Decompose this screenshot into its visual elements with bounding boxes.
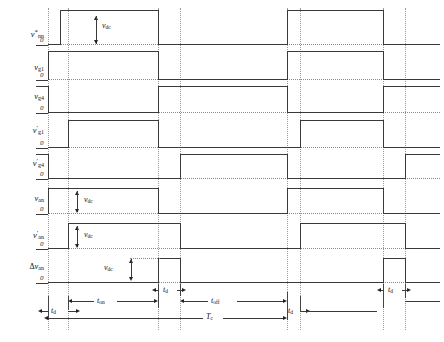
trace-dvan-pulse-1 bbox=[158, 258, 180, 259]
td2-tick-right bbox=[180, 284, 181, 296]
vdc-guide-4 bbox=[130, 258, 160, 259]
trace-vnn-low-1 bbox=[158, 44, 287, 45]
axis-tick-vg4 bbox=[36, 113, 48, 114]
vdc-label-2: vdc bbox=[84, 196, 93, 205]
vdc-arrow-dn-3 bbox=[75, 244, 79, 248]
trace-dvan-zero-3 bbox=[405, 282, 440, 283]
signal-label-vg4: vg4 bbox=[6, 92, 44, 103]
td1-tick-left bbox=[48, 296, 49, 320]
ton-line-right bbox=[117, 301, 154, 302]
signal-label-van: van bbox=[6, 194, 44, 205]
signal-label-vg4-prime: v′g4 bbox=[6, 157, 44, 170]
trace-vg1p-low-1 bbox=[158, 147, 300, 148]
signal-label-delta-van: Δvan bbox=[2, 262, 44, 273]
trace-vanp-high-2 bbox=[300, 223, 405, 224]
trace-van-fall-1 bbox=[158, 188, 159, 214]
trace-vg4-rise-2 bbox=[383, 86, 384, 113]
trace-vg1p-high-2 bbox=[300, 120, 383, 121]
trace-vg1-low-1 bbox=[158, 79, 287, 80]
vdc-arrow-dn-4 bbox=[129, 277, 133, 281]
zero-marker-vnn: 0 bbox=[40, 37, 44, 44]
trace-vanp-rise-2 bbox=[300, 223, 301, 249]
trace-van-low-1 bbox=[158, 213, 287, 214]
baseline-right-a bbox=[405, 301, 440, 302]
trace-van-rise-1 bbox=[48, 188, 49, 214]
td-label-2: td bbox=[163, 286, 168, 295]
vdc-label-4: vdc bbox=[104, 264, 113, 273]
trace-dvan-fall-2 bbox=[405, 258, 406, 283]
trace-vg4p-high-1 bbox=[180, 154, 287, 155]
trace-vg4p-rise-2 bbox=[405, 154, 406, 179]
trace-dvan-zero-1 bbox=[48, 282, 158, 283]
td1-line-right bbox=[68, 311, 76, 312]
td3-tick-right bbox=[300, 296, 301, 312]
trace-dvan-pulse-2 bbox=[383, 258, 405, 259]
trace-vanp-low-0 bbox=[48, 248, 68, 249]
axis-tick-vanp bbox=[36, 249, 48, 250]
td3-tick-left bbox=[287, 292, 288, 320]
tc-line-left bbox=[48, 318, 203, 319]
tc-line-right bbox=[223, 318, 283, 319]
zero-marker-vg4: 0 bbox=[40, 105, 44, 112]
trace-vanp-low-1 bbox=[180, 248, 300, 249]
trace-vg4-rise-1 bbox=[158, 86, 159, 113]
td-label-3: td bbox=[288, 307, 293, 316]
trace-vg1p-rise-1 bbox=[68, 120, 69, 148]
axis-tick-vg4p bbox=[36, 179, 48, 180]
trace-vg1-fall-1 bbox=[158, 51, 159, 80]
trace-vg1p-rise-2 bbox=[300, 120, 301, 148]
trace-vg1-fall-2 bbox=[383, 51, 384, 80]
trace-vnn-high-1 bbox=[60, 10, 158, 11]
td-label-1: td bbox=[51, 307, 56, 316]
trace-vg1-rise-2 bbox=[287, 51, 288, 80]
trace-van-low-2 bbox=[383, 213, 440, 214]
toff-line-right bbox=[237, 301, 283, 302]
vdc-stem-4 bbox=[131, 259, 132, 279]
trace-vg4p-fall-1 bbox=[48, 154, 49, 179]
vdc-arrow-dn-1 bbox=[94, 40, 98, 44]
trace-vg4-fall-2 bbox=[287, 86, 288, 113]
zero-marker-dvan: 0 bbox=[40, 275, 44, 282]
td2-tick-left bbox=[158, 284, 159, 308]
trace-vg4-low-1 bbox=[48, 112, 158, 113]
trace-vnn-low-0 bbox=[48, 44, 60, 45]
td4-tick-right bbox=[405, 284, 406, 298]
trace-vg4-high-2 bbox=[383, 86, 440, 87]
trace-vg4p-high-0 bbox=[36, 154, 48, 155]
trace-van-fall-2 bbox=[383, 188, 384, 214]
tc-label: Tc bbox=[206, 313, 213, 322]
trace-vanp-low-2 bbox=[405, 248, 440, 249]
trace-vnn-high-2 bbox=[287, 10, 383, 11]
zero-marker-vg4p: 0 bbox=[40, 171, 44, 178]
trace-vg4p-fall-2 bbox=[287, 154, 288, 179]
zero-marker-vanp: 0 bbox=[40, 241, 44, 248]
axis-tick-vg1p bbox=[36, 148, 48, 149]
trace-vg1-rise-1 bbox=[48, 51, 49, 80]
trace-vg4p-high-2 bbox=[405, 154, 440, 155]
axis-tick-vnn bbox=[36, 45, 48, 46]
trace-vg1p-fall-2 bbox=[383, 120, 384, 148]
trace-vanp-fall-2 bbox=[405, 223, 406, 249]
signal-label-van-prime: v′an bbox=[6, 229, 44, 242]
trace-vnn-low-2 bbox=[383, 44, 440, 45]
trace-vanp-high-1 bbox=[68, 223, 180, 224]
trace-vg4-high-0 bbox=[36, 86, 48, 87]
trace-dvan-rise-1 bbox=[158, 258, 159, 283]
td4-tick-left bbox=[383, 284, 384, 308]
ton-label: ton bbox=[97, 297, 105, 306]
trace-vg1p-low-0 bbox=[48, 147, 68, 148]
tc-arrow-left bbox=[44, 316, 48, 320]
toff-label: toff bbox=[211, 297, 220, 306]
baseline-right-b bbox=[306, 311, 377, 312]
trace-vnn-fall-1 bbox=[158, 10, 159, 45]
signal-label-vnn: v*nn bbox=[6, 28, 44, 41]
axis-tick-vg1 bbox=[36, 80, 48, 81]
vdc-arrow-dn-2 bbox=[75, 209, 79, 213]
trace-vg1-low-2 bbox=[383, 79, 440, 80]
trace-vg1p-low-2 bbox=[383, 147, 440, 148]
vdc-label-1: vdc bbox=[102, 22, 111, 31]
ton-line-left bbox=[72, 301, 94, 302]
zero-marker-vg1: 0 bbox=[40, 72, 44, 79]
zero-marker-vg1p: 0 bbox=[40, 140, 44, 147]
trace-vg4-high-1 bbox=[158, 86, 287, 87]
